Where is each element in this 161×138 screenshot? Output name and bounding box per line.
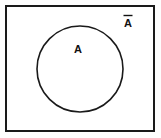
set-a-label: A xyxy=(74,43,82,55)
venn-diagram-figure: A A xyxy=(0,0,161,138)
complement-label: A xyxy=(124,17,132,29)
venn-diagram-canvas: A A xyxy=(0,0,161,138)
